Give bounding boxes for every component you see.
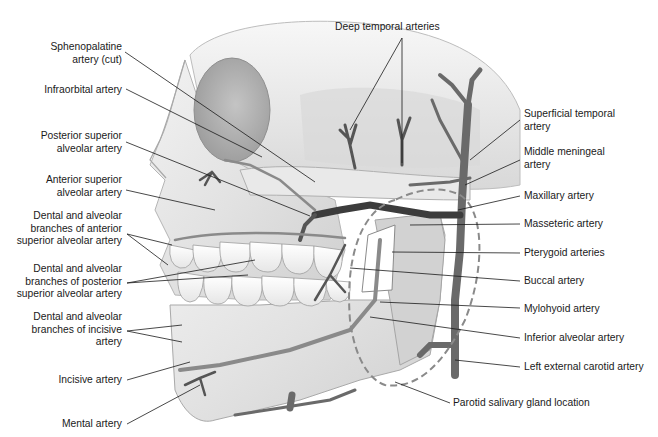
label-incisive-artery: Incisive artery: [58, 374, 122, 387]
label-superficial-temporal-artery: Superficial temporal artery: [524, 108, 615, 133]
label-infraorbital-artery: Infraorbital artery: [44, 84, 122, 97]
label-dental-alveolar-branches-incisive: Dental and alveolar branches of incisive…: [32, 311, 122, 349]
label-anterior-superior-alveolar-artery: Anterior superior alveolar artery: [46, 174, 122, 199]
label-sphenopalatine-artery: Sphenopalatine artery (cut): [50, 41, 122, 66]
label-masseteric-artery: Masseteric artery: [524, 218, 603, 231]
label-maxillary-artery: Maxillary artery: [524, 190, 594, 203]
label-mental-artery: Mental artery: [62, 418, 122, 431]
label-mylohyoid-artery: Mylohyoid artery: [524, 303, 600, 316]
label-buccal-artery: Buccal artery: [524, 275, 584, 288]
label-dental-alveolar-branches-posterior: Dental and alveolar branches of posterio…: [17, 263, 122, 301]
label-inferior-alveolar-artery: Inferior alveolar artery: [524, 332, 624, 345]
label-pterygoid-arteries: Pterygoid arteries: [524, 247, 605, 260]
label-deep-temporal-arteries: Deep temporal arteries: [335, 21, 440, 34]
label-parotid-salivary-gland-location: Parotid salivary gland location: [453, 397, 590, 410]
orbit: [194, 58, 270, 162]
label-dental-alveolar-branches-anterior: Dental and alveolar branches of anterior…: [17, 210, 122, 248]
label-middle-meningeal-artery: Middle meningeal artery: [524, 146, 605, 171]
anatomy-figure: Deep temporal arteries Sphenopalatine ar…: [0, 0, 658, 437]
label-left-external-carotid-artery: Left external carotid artery: [524, 361, 644, 374]
label-posterior-superior-alveolar-artery: Posterior superior alveolar artery: [41, 130, 122, 155]
